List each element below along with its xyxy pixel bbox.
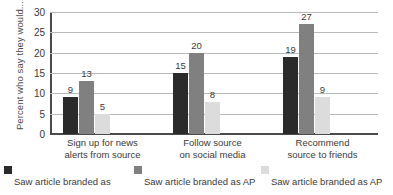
x-axis-category-labels: Sign up for news alerts from source Foll…	[50, 137, 378, 161]
legend-item-ap-not-trusting[interactable]: Saw article branded as AP (reported not …	[134, 164, 262, 195]
category-label-line2: on social media	[160, 149, 265, 161]
y-tick-10: 10	[4, 88, 50, 99]
bar-recommend-ap-trusting[interactable]: 9	[315, 12, 330, 134]
legend-item-ap-trusting[interactable]: Saw article branded as AP (reported trus…	[261, 164, 393, 195]
bar-rect	[299, 24, 314, 134]
grouped-bar-chart: Percent who say they would... 30 25 20 1…	[0, 0, 393, 195]
legend-swatch-icon	[261, 166, 269, 174]
legend-item-daily-news-review[interactable]: Saw article branded as Daily News Review	[4, 164, 132, 195]
bar-group-recommend: 19 27 9	[283, 12, 330, 134]
bar-value: 19	[285, 44, 296, 55]
bar-rect	[63, 97, 78, 134]
category-label-recommend: Recommend source to friends	[270, 137, 375, 160]
bar-sign-up-ap-trusting[interactable]: 5	[95, 12, 110, 134]
bar-value: 20	[191, 40, 202, 51]
category-label-follow-source: Follow source on social media	[160, 137, 265, 160]
y-tick-0: 0	[4, 129, 50, 140]
y-axis-tick-labels: 30 25 20 15 10 5 0	[0, 12, 50, 134]
bar-recommend-daily-news-review[interactable]: 19	[283, 12, 298, 134]
legend-label: Saw article branded as AP (reported trus…	[271, 164, 382, 195]
bar-rect	[205, 102, 220, 135]
bar-rect	[283, 57, 298, 134]
bar-follow-ap-trusting[interactable]: 8	[205, 12, 220, 134]
plot-area: 9 13 5 15 20 8	[50, 12, 378, 134]
category-label-line1: Recommend	[270, 137, 375, 149]
bar-value: 5	[100, 101, 105, 112]
bar-recommend-ap-not-trusting[interactable]: 27	[299, 12, 314, 134]
bar-value: 9	[68, 84, 73, 95]
category-label-sign-up: Sign up for news alerts from source	[50, 137, 155, 160]
legend-swatch-icon	[134, 166, 142, 174]
y-tick-25: 25	[4, 27, 50, 38]
bar-value: 9	[320, 84, 325, 95]
y-tick-15: 15	[4, 68, 50, 79]
bar-value: 8	[210, 89, 215, 100]
legend-label-line1: Saw article branded as AP	[144, 176, 255, 187]
category-label-line2: source to friends	[270, 149, 375, 161]
legend-swatch-icon	[4, 166, 12, 174]
bar-follow-ap-not-trusting[interactable]: 20	[189, 12, 204, 134]
y-tick-30: 30	[4, 7, 50, 18]
bar-value: 27	[301, 11, 312, 22]
category-label-line2: alerts from source	[50, 149, 155, 161]
category-label-line1: Sign up for news	[50, 137, 155, 149]
bar-follow-daily-news-review[interactable]: 15	[173, 12, 188, 134]
legend-label: Saw article branded as AP (reported not …	[144, 164, 255, 195]
bar-sign-up-daily-news-review[interactable]: 9	[63, 12, 78, 134]
bar-rect	[189, 53, 204, 134]
y-tick-5: 5	[4, 108, 50, 119]
bar-value: 13	[81, 68, 92, 79]
bar-rect	[95, 114, 110, 134]
bar-group-follow-source: 15 20 8	[173, 12, 220, 134]
legend-label-line1: Saw article branded as	[14, 176, 111, 187]
y-tick-20: 20	[4, 47, 50, 58]
chart-legend: Saw article branded as Daily News Review…	[4, 164, 389, 192]
legend-label: Saw article branded as Daily News Review	[14, 164, 111, 195]
bar-value: 15	[175, 60, 186, 71]
bar-rect	[173, 73, 188, 134]
bar-rect	[79, 81, 94, 134]
category-label-line1: Follow source	[160, 137, 265, 149]
bar-group-sign-up: 9 13 5	[63, 12, 110, 134]
bar-rect	[315, 97, 330, 134]
legend-label-line1: Saw article branded as AP	[271, 176, 382, 187]
bar-sign-up-ap-not-trusting[interactable]: 13	[79, 12, 94, 134]
